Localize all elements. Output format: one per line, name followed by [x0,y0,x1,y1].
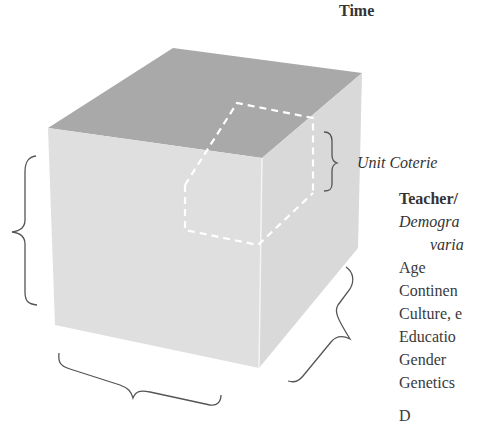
panel-subheading-1: Demogra [399,214,459,230]
time-axis-label: Time [339,3,374,19]
bottom-brace-icon [59,353,221,405]
list-item-continent: Continen [399,283,458,299]
unit-coterie-label: Unit Coterie [357,155,437,171]
left-brace-icon [12,156,37,305]
list-item-genetics: Genetics [399,375,455,391]
list-item-truncated: D [399,408,411,424]
list-item-age: Age [399,260,426,276]
panel-heading: Teacher/ [399,191,458,207]
cube-front-face [48,128,262,368]
list-item-culture: Culture, e [399,306,462,322]
list-item-gender: Gender [399,352,446,368]
panel-subheading-2: varia [430,237,464,253]
list-item-education: Educatio [399,329,456,345]
